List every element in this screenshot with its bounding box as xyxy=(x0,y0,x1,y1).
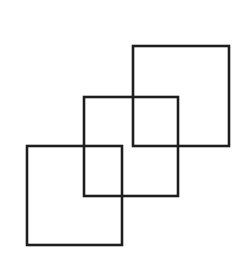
overlapping-squares-diagram xyxy=(0,0,252,263)
